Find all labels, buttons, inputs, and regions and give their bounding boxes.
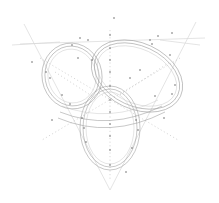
construction-axes xyxy=(40,30,180,180)
construction-points xyxy=(31,17,176,173)
construction-triangle xyxy=(12,22,205,190)
diagram-canvas xyxy=(0,0,219,203)
top-right-ring xyxy=(80,26,195,126)
top-left-ring xyxy=(37,38,108,113)
triquetra-construction-diagram xyxy=(0,0,219,203)
